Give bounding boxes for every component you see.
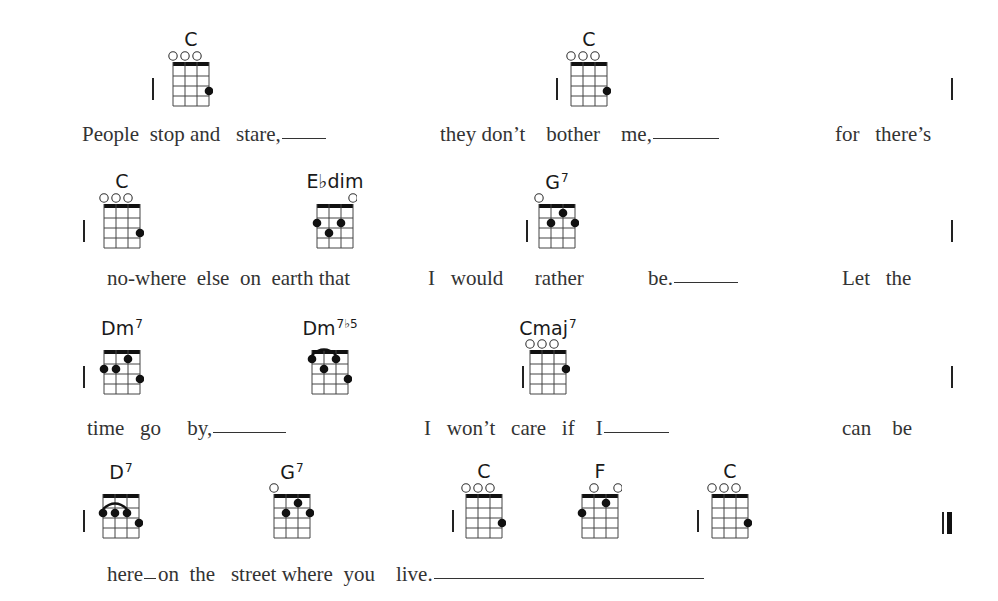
lyric-line-segment: People stop and stare,	[82, 124, 326, 145]
melisma-hold-line	[213, 430, 286, 433]
chord-diagram-d7	[97, 480, 143, 546]
chord-diagram-c	[565, 48, 611, 114]
barline	[83, 366, 85, 388]
chord-diagram-g7	[268, 480, 314, 546]
chord-diagram-ebdim	[311, 190, 357, 256]
lyric-line-segment: can be	[842, 418, 912, 439]
melisma-hold-line	[144, 576, 156, 579]
barline	[556, 78, 558, 100]
chord-diagram-f	[576, 480, 622, 546]
barline	[951, 366, 953, 388]
melisma-hold-line	[282, 136, 326, 139]
lyric-line-segment: on the street where you live.	[158, 564, 704, 585]
melisma-hold-line	[604, 430, 669, 433]
chord-diagram-g7	[533, 190, 579, 256]
barline	[83, 220, 85, 242]
chord-diagram-c	[98, 190, 144, 256]
chord-diagram-dm7	[98, 336, 144, 402]
chord-name: C	[582, 30, 595, 49]
barline	[522, 366, 524, 388]
barline	[83, 510, 85, 532]
lyric-line-segment: they don’t bother me,	[440, 124, 719, 145]
lyric-line-segment: here	[107, 564, 156, 585]
lyric-line-segment: time go by,	[87, 418, 286, 439]
final-barline-thin	[942, 512, 944, 534]
chord-diagram-cmaj7	[524, 336, 570, 402]
barline	[452, 510, 454, 532]
chord-name: C	[723, 462, 736, 481]
melisma-hold-line	[653, 136, 719, 139]
chord-diagram-dm7b5	[306, 336, 352, 402]
lyric-line-segment: no-where else on earth that	[107, 268, 350, 289]
chord-name: Dm7	[101, 318, 143, 338]
barline	[697, 510, 699, 532]
chord-name: F	[595, 462, 606, 481]
chord-name: D7	[109, 462, 132, 482]
barline	[526, 220, 528, 242]
lyric-line-segment: Let the	[842, 268, 911, 289]
chord-diagram-c	[706, 480, 752, 546]
chord-diagram-c	[167, 48, 213, 114]
chord-name: Cmaj7	[519, 318, 576, 338]
barline	[951, 220, 953, 242]
melisma-hold-line	[434, 576, 704, 579]
lyric-line-segment: be.	[648, 268, 738, 289]
barline	[951, 78, 953, 100]
chord-name: G7	[280, 462, 303, 482]
chord-name: E♭dim	[307, 172, 364, 191]
final-barline-thick	[947, 512, 952, 534]
melisma-hold-line	[674, 280, 738, 283]
chord-name: C	[477, 462, 490, 481]
chord-name: C	[115, 172, 128, 191]
chord-diagram-c	[460, 480, 506, 546]
lyric-line-segment: I won’t care if I	[424, 418, 669, 439]
chord-name: C	[184, 30, 197, 49]
barline	[152, 78, 154, 100]
chord-name: Dm7♭5	[302, 318, 357, 338]
chord-name: G7	[545, 172, 568, 192]
lyric-line-segment: for there’s	[835, 124, 931, 145]
lyric-line-segment: I would rather	[428, 268, 584, 289]
